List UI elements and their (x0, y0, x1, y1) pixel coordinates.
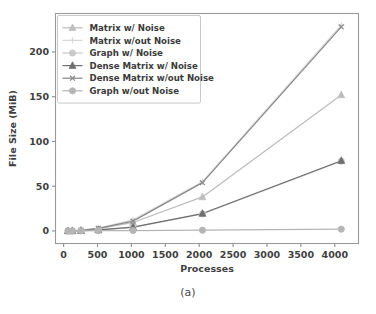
x-axis-title: Processes (180, 263, 234, 274)
y-tick-label-4: 200 (29, 46, 49, 57)
series-0-point-5 (199, 193, 206, 200)
legend-label-4: Dense Matrix w/out Noise (90, 73, 215, 83)
series-5-point-3 (95, 228, 101, 234)
chart-svg: 0500100015002000250030003500400005010015… (0, 0, 376, 314)
series-line-0 (68, 95, 341, 231)
x-tick-label-8: 4000 (322, 249, 349, 260)
legend-label-5: Graph w/out Noise (90, 86, 180, 96)
x-tick-label-7: 3500 (288, 249, 315, 260)
series-5-point-4 (130, 227, 136, 233)
y-tick-label-3: 150 (29, 91, 49, 102)
legend-label-1: Matrix w/out Noise (90, 36, 182, 46)
figure-panel: 0500100015002000250030003500400005010015… (0, 0, 376, 314)
series-legend-point-2 (69, 50, 75, 56)
series-5-point-6 (338, 226, 344, 232)
x-tick-label-0: 0 (60, 249, 67, 260)
y-tick-label-0: 0 (42, 225, 49, 236)
legend-label-0: Matrix w/ Noise (90, 23, 165, 33)
x-tick-label-5: 2500 (220, 249, 247, 260)
y-tick-label-1: 50 (36, 181, 50, 192)
y-axis-title: File Size (MiB) (7, 90, 18, 167)
x-tick-label-1: 500 (88, 249, 108, 260)
y-tick-label-2: 100 (29, 136, 49, 147)
figure-caption: (a) (180, 286, 195, 299)
x-tick-label-4: 2000 (186, 249, 213, 260)
x-tick-label-3: 1500 (152, 249, 179, 260)
x-tick-label-2: 1000 (118, 249, 145, 260)
legend-label-2: Graph w/ Noise (90, 48, 164, 58)
series-5-point-5 (199, 227, 205, 233)
legend[interactable]: Matrix w/ NoiseMatrix w/out NoiseGraph w… (58, 16, 215, 104)
series-legend-point-5 (69, 88, 75, 94)
x-tick-label-6: 3000 (254, 249, 281, 260)
series-5-point-2 (78, 228, 84, 234)
legend-label-3: Dense Matrix w/ Noise (90, 61, 198, 71)
series-0-point-6 (338, 91, 345, 98)
series-5-point-1 (69, 228, 75, 234)
